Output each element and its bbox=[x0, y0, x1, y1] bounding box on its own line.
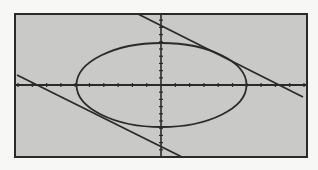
calculator-graph-screen bbox=[0, 0, 318, 170]
